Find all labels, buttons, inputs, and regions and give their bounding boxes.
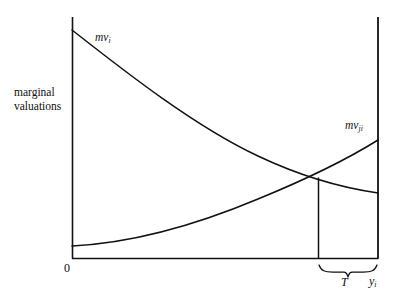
figure-canvas: [0, 0, 399, 304]
y-axis-caption-line2: valuations: [14, 100, 74, 114]
y-axis-caption: marginal valuations: [14, 86, 74, 113]
curve-label-mv-i-base: mv: [95, 31, 108, 43]
x-axis-label-yi: yi: [369, 274, 377, 288]
curve-mv-ji: [72, 140, 378, 246]
y-axis-caption-line1: marginal: [14, 86, 74, 100]
origin-label: 0: [64, 261, 70, 275]
brace-label-T: T: [341, 275, 348, 289]
marginal-valuations-figure: marginal valuations 0 mvi mvji T yi: [0, 0, 399, 304]
curve-label-mv-ji: mvji: [345, 119, 363, 133]
curve-label-mv-i-subscript: i: [108, 36, 110, 45]
curve-label-mv-ji-subscript: ji: [358, 124, 363, 133]
curve-label-mv-i: mvi: [95, 31, 111, 45]
curve-mv-i: [72, 30, 378, 193]
x-axis-label-yi-subscript: i: [374, 280, 376, 289]
curve-label-mv-ji-base: mv: [345, 119, 358, 131]
